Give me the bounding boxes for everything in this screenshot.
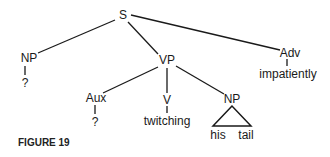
node-vp: VP [159,54,175,66]
edge-s-adv [131,15,280,50]
figure-caption: FIGURE 19 [18,137,70,148]
node-np-object: NP [224,93,241,105]
node-np-subject: NP [21,52,38,64]
leaf-v: twitching [144,115,191,127]
edge-vp-aux [103,67,158,93]
node-adv: Adv [280,47,301,59]
leaf-tail: tail [238,129,253,141]
node-aux: Aux [86,92,107,104]
edge-s-np [38,20,115,53]
leaf-aux: ? [92,116,99,128]
leaf-np-subject: ? [22,77,29,89]
node-v: V [163,94,171,106]
np-triangle [213,106,251,126]
edge-s-vp [128,22,158,54]
node-s: S [119,9,127,21]
leaf-adv: impatiently [259,68,316,80]
leaf-his: his [210,129,225,141]
edge-vp-np [176,66,224,94]
